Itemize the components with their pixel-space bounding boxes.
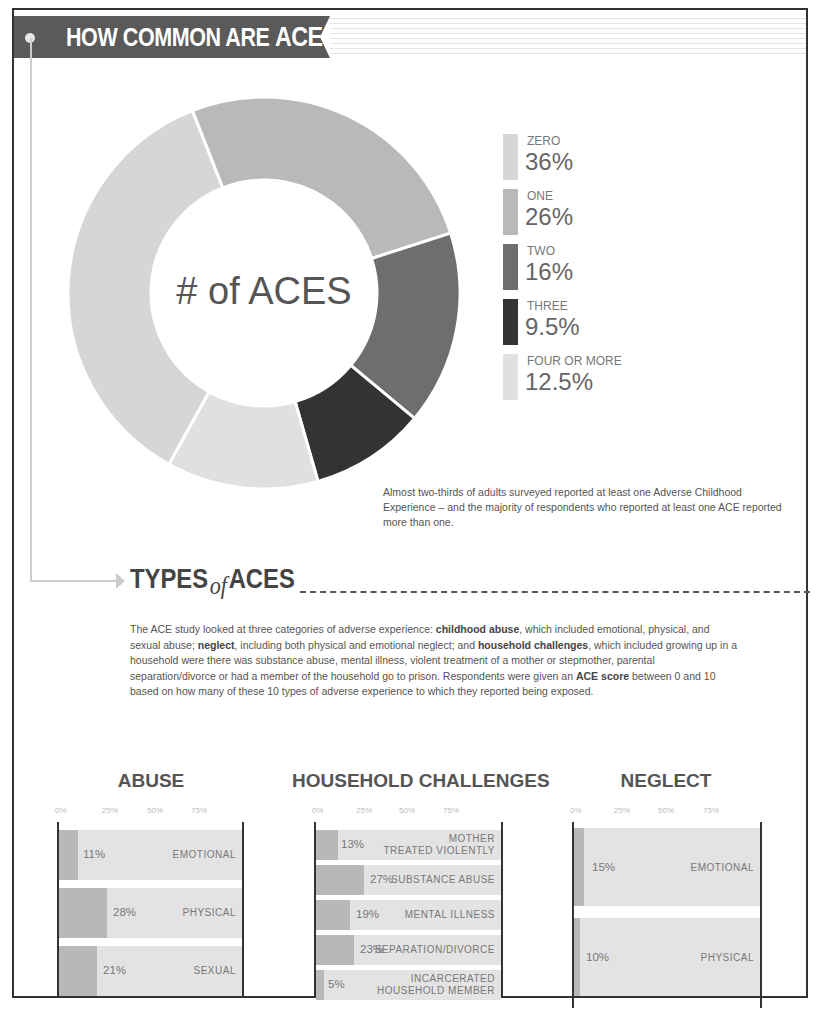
bar-value: 13% bbox=[341, 838, 364, 850]
bar-value: 27% bbox=[370, 873, 393, 885]
axis-line bbox=[242, 822, 244, 997]
chart-title: NEGLECT bbox=[570, 770, 762, 792]
bar-fill bbox=[316, 865, 364, 895]
neglect-bar-chart: NEGLECT 0% 25% 50% 75% 15% EMOTIONAL 10%… bbox=[570, 770, 762, 995]
tick-label: 50% bbox=[399, 806, 415, 815]
bar-physical: 28% PHYSICAL bbox=[59, 888, 242, 938]
donut-center-label: # of ACES bbox=[174, 270, 354, 313]
tick-label: 0% bbox=[312, 806, 324, 815]
bar-fill bbox=[574, 828, 584, 906]
legend-label: THREE bbox=[527, 299, 568, 313]
bar-sexual: 21% SEXUAL bbox=[59, 946, 242, 996]
legend-swatch bbox=[503, 244, 518, 290]
abuse-bar-chart: ABUSE 0% 25% 50% 75% 11% EMOTIONAL 28% P… bbox=[55, 770, 247, 995]
legend-label: TWO bbox=[527, 244, 555, 258]
header-hatch-decoration bbox=[330, 18, 806, 56]
bar-separation-divorce: 23% SEPARATION/DIVORCE bbox=[316, 935, 501, 965]
bar-label: INCARCERATEDHOUSEHOLD MEMBER bbox=[377, 973, 495, 997]
axis-ticks: 0% 25% 50% 75% bbox=[570, 806, 762, 818]
bar-label: EMOTIONAL bbox=[173, 849, 236, 861]
bar-mental-illness: 19% MENTAL ILLNESS bbox=[316, 900, 501, 930]
bar-physical: 10% PHYSICAL bbox=[574, 918, 760, 996]
chart-title: ABUSE bbox=[55, 770, 247, 792]
bar-label: MENTAL ILLNESS bbox=[405, 909, 495, 921]
legend-swatch bbox=[503, 134, 518, 180]
legend-value: 36% bbox=[525, 148, 573, 176]
tick-label: 0% bbox=[570, 806, 582, 815]
tick-label: 75% bbox=[443, 806, 459, 815]
bar-fill bbox=[59, 946, 97, 996]
bar-label: PHYSICAL bbox=[183, 907, 236, 919]
bar-value: 19% bbox=[356, 908, 379, 920]
bar-fill bbox=[316, 830, 338, 860]
bar-value: 5% bbox=[328, 978, 345, 990]
donut-segment-one bbox=[192, 97, 450, 258]
bar-label: SEXUAL bbox=[194, 965, 236, 977]
tick-label: 75% bbox=[703, 806, 719, 815]
legend-swatch bbox=[503, 299, 518, 345]
legend-label: ONE bbox=[527, 189, 553, 203]
tick-label: 50% bbox=[658, 806, 674, 815]
bar-value: 11% bbox=[83, 848, 105, 860]
bar-fill bbox=[59, 830, 78, 880]
bar-value: 28% bbox=[113, 906, 136, 918]
axis-ticks: 0% 25% 50% 75% bbox=[312, 806, 504, 818]
tick-label: 75% bbox=[191, 806, 207, 815]
tick-label: 25% bbox=[356, 806, 372, 815]
tick-label: 25% bbox=[102, 806, 118, 815]
household-challenges-bar-chart: HOUSEHOLD CHALLENGES 0% 25% 50% 75% 13% … bbox=[312, 770, 504, 995]
section-title-types: TYPESofACES bbox=[130, 563, 295, 595]
bar-substance-abuse: 27% SUBSTANCE ABUSE bbox=[316, 865, 501, 895]
tick-label: 25% bbox=[614, 806, 630, 815]
chart-title: HOUSEHOLD CHALLENGES bbox=[292, 770, 524, 792]
bar-value: 21% bbox=[103, 964, 126, 976]
bar-label: SUBSTANCE ABUSE bbox=[391, 874, 495, 886]
header-banner: HOW COMMON ARE ACES? bbox=[14, 16, 330, 58]
legend-value: 26% bbox=[525, 203, 573, 231]
legend-label: ZERO bbox=[527, 134, 560, 148]
axis-line bbox=[760, 822, 762, 1008]
donut-caption: Almost two-thirds of adults surveyed rep… bbox=[383, 485, 783, 530]
legend-label: FOUR OR MORE bbox=[527, 354, 622, 368]
bar-fill bbox=[316, 900, 350, 930]
types-description: The ACE study looked at three categories… bbox=[130, 622, 740, 700]
bar-fill bbox=[59, 888, 107, 938]
bar-label: PHYSICAL bbox=[701, 952, 754, 964]
axis-ticks: 0% 25% 50% 75% bbox=[55, 806, 247, 818]
tick-label: 0% bbox=[55, 806, 67, 815]
legend-value: 9.5% bbox=[525, 313, 580, 341]
legend-swatch bbox=[503, 189, 518, 235]
bar-label: MOTHERTREATED VIOLENTLY bbox=[384, 833, 495, 857]
bar-label: EMOTIONAL bbox=[691, 862, 754, 874]
dashed-divider bbox=[300, 591, 810, 593]
bar-value: 15% bbox=[592, 861, 615, 873]
legend-swatch bbox=[503, 354, 518, 400]
bar-fill bbox=[574, 918, 580, 996]
legend-value: 12.5% bbox=[525, 368, 593, 396]
bar-mother-treated-violently: 13% MOTHERTREATED VIOLENTLY bbox=[316, 830, 501, 860]
legend-value: 16% bbox=[525, 258, 573, 286]
tick-label: 50% bbox=[147, 806, 163, 815]
arrow-right-icon bbox=[116, 573, 125, 589]
connector-line bbox=[30, 38, 32, 580]
bar-fill bbox=[316, 935, 354, 965]
bar-fill bbox=[316, 970, 324, 1000]
bar-emotional: 15% EMOTIONAL bbox=[574, 828, 760, 906]
bar-value: 10% bbox=[586, 951, 609, 963]
connector-line bbox=[30, 580, 120, 582]
axis-line bbox=[501, 822, 503, 998]
bar-label: SEPARATION/DIVORCE bbox=[375, 944, 495, 956]
bar-emotional: 11% EMOTIONAL bbox=[59, 830, 242, 880]
page-title: HOW COMMON ARE ACES? bbox=[66, 22, 351, 53]
bar-incarcerated-household-member: 5% INCARCERATEDHOUSEHOLD MEMBER bbox=[316, 970, 501, 1000]
